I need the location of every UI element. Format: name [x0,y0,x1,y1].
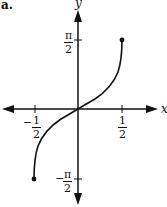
graph-plot [0,0,167,207]
x-axis-right-arrow-icon [146,105,158,113]
x-tick-pos-denominator: 2 [119,129,126,140]
x-tick-pos-numerator: 1 [119,115,126,126]
y-tick-neg-label: π 2 [63,169,72,194]
x-axis-label: x [161,102,167,116]
y-tick-pos-numerator: π [65,30,72,41]
curve-endpoint-top [120,38,125,43]
y-tick-neg-denominator: 2 [64,183,71,194]
y-axis-label: y [75,0,82,10]
x-axis-left-arrow-icon [2,105,14,113]
x-tick-pos-label: 1 2 [118,115,127,140]
x-tick-neg-denominator: 2 [33,129,40,140]
y-tick-pos-denominator: 2 [65,44,72,55]
y-axis-down-arrow-icon [74,193,82,205]
x-tick-neg-sign: − [23,116,32,129]
y-tick-pos-label: π 2 [64,30,73,55]
curve-endpoint-bottom [32,177,37,182]
x-tick-neg-numerator: 1 [33,115,40,126]
y-axis-up-arrow-icon [74,10,82,22]
x-tick-neg-label: 1 2 [32,115,41,140]
y-tick-neg-numerator: π [64,169,71,180]
